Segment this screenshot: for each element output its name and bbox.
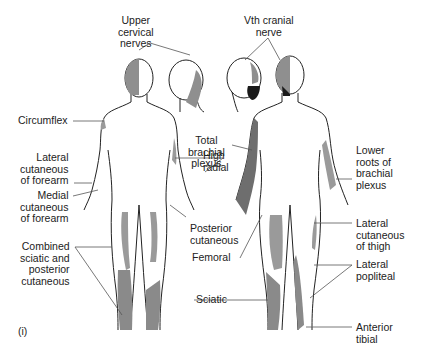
high-radial-back-shade <box>172 138 176 165</box>
label-anterior-tibial: Anterior tibial <box>356 322 393 345</box>
posterior-cutaneous-shade-l <box>121 212 130 270</box>
sciatic-back-shade-r <box>146 280 160 330</box>
label-upper-cervical-nerves: Upper cervical nerves <box>118 15 154 50</box>
sciatic-back-shade-l <box>118 270 133 330</box>
circumflex-shade <box>101 118 106 130</box>
dermatome-diagram: Upper cervical nerves Vth cranial nerve … <box>0 0 421 357</box>
total-brachial-shade <box>236 118 258 215</box>
label-lateral-cutaneous-forearm: Lateral cutaneous of forearm <box>20 152 68 187</box>
panel-label: (i) <box>18 326 27 338</box>
posterior-cutaneous-shade-r <box>150 212 158 262</box>
sciatic-front-shade <box>266 272 280 330</box>
label-lateral-popliteal: Lateral popliteal <box>356 259 395 282</box>
back-figure <box>84 59 194 330</box>
lateral-cut-thigh-shade <box>312 215 317 250</box>
label-combined-sciatic-posterior: Combined sciatic and posterior cutaneous <box>20 241 70 287</box>
label-medial-cutaneous-forearm: Medial cutaneous of forearm <box>20 190 68 225</box>
label-femoral: Femoral <box>192 252 231 264</box>
upper-cervical-back-shade <box>125 59 139 95</box>
label-lateral-cutaneous-thigh: Lateral cutaneous of thigh <box>356 218 404 253</box>
label-lower-roots-brachial-plexus: Lower roots of brachial plexus <box>356 145 393 191</box>
femoral-shade <box>269 215 283 270</box>
label-circumflex: Circumflex <box>18 115 68 127</box>
label-high-radial: High radial <box>203 150 229 173</box>
side-head-front <box>227 58 261 112</box>
label-posterior-cutaneous: Posterior cutaneous <box>190 223 238 246</box>
label-sciatic: Sciatic <box>196 294 227 306</box>
lateral-popliteal-shade <box>294 255 304 330</box>
label-vth-cranial-nerve: Vth cranial nerve <box>244 15 294 38</box>
